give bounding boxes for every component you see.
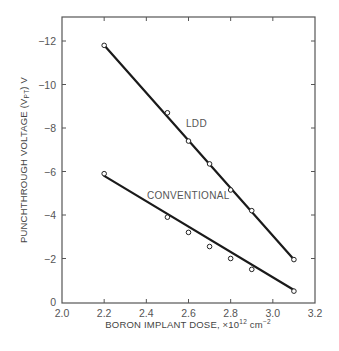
data-points — [102, 43, 296, 293]
y-axis-label: PUNCHTHROUGH VOLTAGE (VPT) V — [18, 76, 30, 243]
y-tick-label: −10 — [38, 79, 56, 91]
data-point-ldd — [165, 110, 170, 115]
x-tick-label: 2.6 — [181, 307, 196, 319]
annotation-ldd: LDD — [186, 118, 207, 129]
x-tick-label: 2.4 — [139, 307, 154, 319]
tick-labels: 2.02.22.42.62.83.03.20−2−4−6−8−10−12 — [38, 35, 322, 319]
plot-axes — [62, 17, 315, 303]
y-tick-label: −12 — [38, 35, 56, 47]
data-point-conventional — [165, 215, 170, 220]
punchthrough-voltage-chart: 2.02.22.42.62.83.03.20−2−4−6−8−10−12 LDD… — [0, 0, 339, 351]
data-point-ldd — [102, 43, 107, 48]
y-tick-label: 0 — [50, 296, 56, 308]
data-point-conventional — [102, 171, 107, 176]
y-tick-label: −2 — [44, 253, 56, 265]
data-point-ldd — [292, 257, 297, 262]
data-point-ldd — [249, 208, 254, 213]
data-point-ldd — [186, 139, 191, 144]
x-axis-label: BORON IMPLANT DOSE, ×1012 cm−2 — [105, 318, 271, 330]
x-tick-label: 3.2 — [308, 307, 323, 319]
fit-lines — [104, 45, 294, 290]
data-point-conventional — [186, 230, 191, 235]
x-tick-label: 2.8 — [223, 307, 238, 319]
y-tick-label: −6 — [44, 166, 56, 178]
plot-frame — [62, 17, 315, 303]
data-point-conventional — [249, 267, 254, 272]
fit-line-ldd — [104, 45, 294, 259]
data-point-conventional — [228, 256, 233, 261]
data-point-conventional — [292, 289, 297, 294]
y-tick-label: −4 — [44, 209, 56, 221]
x-tick-label: 2.2 — [97, 307, 112, 319]
annotation-conventional: CONVENTIONAL — [147, 190, 230, 201]
y-tick-label: −8 — [44, 122, 56, 134]
data-point-conventional — [207, 244, 212, 249]
data-point-ldd — [207, 162, 212, 167]
x-tick-label: 2.0 — [55, 307, 70, 319]
